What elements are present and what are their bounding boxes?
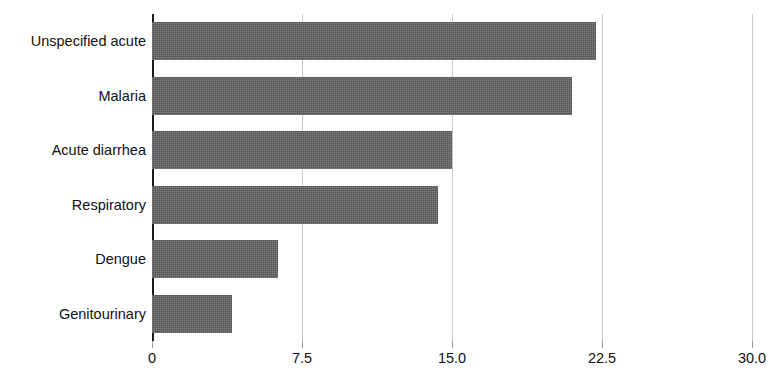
gridline-7.5 [302, 14, 303, 341]
chart-title-cropped [150, 0, 650, 3]
bar-row [152, 131, 752, 169]
x-tick-label-30.0: 30.0 [738, 350, 766, 366]
bar-row [152, 295, 752, 333]
plot-area [152, 14, 752, 341]
bar-dengue [152, 240, 278, 278]
x-tick-15.0 [452, 341, 453, 348]
x-tick-label-22.5: 22.5 [588, 350, 616, 366]
x-tick-22.5 [602, 341, 603, 348]
bar-row [152, 22, 752, 60]
y-axis-label-respiratory: Respiratory [0, 186, 146, 224]
bar-malaria [152, 77, 572, 115]
gridline-15.0 [452, 14, 453, 341]
bar-acute-diarrhea [152, 131, 452, 169]
bar-row [152, 186, 752, 224]
bar-chart-figure: Unspecified acuteMalariaAcute diarrheaRe… [0, 0, 783, 373]
x-tick-label-7.5: 7.5 [292, 350, 312, 366]
x-tick-30.0 [752, 341, 753, 348]
bar-genitourinary [152, 295, 232, 333]
y-axis-category-labels: Unspecified acuteMalariaAcute diarrheaRe… [0, 14, 146, 341]
bar-unspecified-acute [152, 22, 596, 60]
x-tick-0 [152, 341, 153, 348]
x-tick-7.5 [302, 341, 303, 348]
bar-row [152, 240, 752, 278]
y-axis-label-dengue: Dengue [0, 240, 146, 278]
bar-row [152, 77, 752, 115]
gridline-30.0 [752, 14, 753, 341]
y-axis-line [152, 14, 154, 341]
y-axis-label-genitourinary: Genitourinary [0, 295, 146, 333]
x-axis: 07.515.022.530.0 [152, 341, 752, 373]
x-tick-label-0: 0 [148, 350, 156, 366]
y-axis-label-acute-diarrhea: Acute diarrhea [0, 131, 146, 169]
y-axis-label-unspecified-acute: Unspecified acute [0, 22, 146, 60]
x-tick-label-15.0: 15.0 [438, 350, 466, 366]
bar-respiratory [152, 186, 438, 224]
y-axis-label-malaria: Malaria [0, 77, 146, 115]
gridline-22.5 [602, 14, 603, 341]
